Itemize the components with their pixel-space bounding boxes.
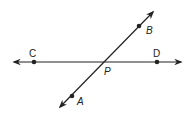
label-d: D <box>153 48 160 59</box>
label-a: A <box>76 96 84 107</box>
point-c <box>32 60 37 65</box>
point-d <box>155 60 160 65</box>
label-b: B <box>146 25 153 36</box>
point-b <box>137 24 142 29</box>
geometry-diagram: C D P B A <box>0 0 191 114</box>
label-p: P <box>104 66 111 77</box>
point-a <box>70 94 75 99</box>
label-c: C <box>29 48 36 59</box>
